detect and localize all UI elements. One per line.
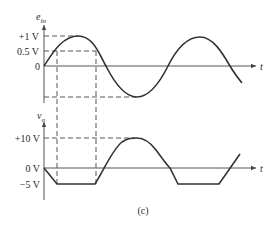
output-y-label: vo bbox=[37, 110, 45, 124]
output-clipped-curve bbox=[44, 138, 240, 184]
input-y-label: ein bbox=[36, 11, 46, 25]
tick-plus10v: +10 V bbox=[15, 133, 41, 144]
figure-caption: (c) bbox=[137, 205, 148, 217]
input-plot: ein +1 V 0.5 V 0 t bbox=[17, 11, 263, 103]
tick-zero: 0 bbox=[35, 61, 40, 72]
tick-half-v: 0.5 V bbox=[17, 46, 40, 57]
tick-plus1v: +1 V bbox=[19, 31, 40, 42]
output-x-label: t bbox=[260, 163, 263, 174]
waveform-diagram: ein +1 V 0.5 V 0 t vo +10 V 0 V −5 V t (… bbox=[0, 0, 274, 229]
tick-minus5v: −5 V bbox=[20, 179, 41, 190]
input-x-label: t bbox=[260, 61, 263, 72]
output-plot: vo +10 V 0 V −5 V t bbox=[15, 110, 263, 200]
tick-zero-v: 0 V bbox=[25, 163, 40, 174]
